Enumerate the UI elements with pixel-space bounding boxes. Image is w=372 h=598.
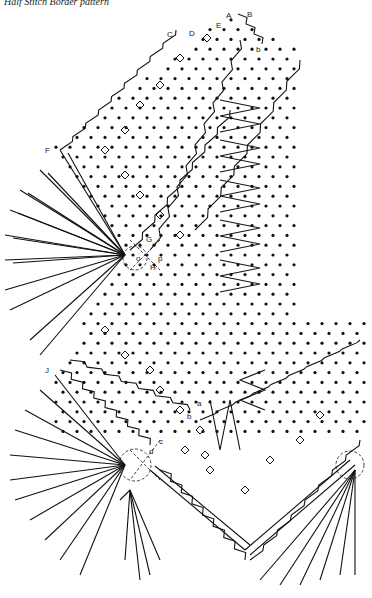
label-a: a xyxy=(197,399,202,408)
label-d: d xyxy=(149,447,153,456)
label-B: B xyxy=(247,10,252,19)
label-G: G xyxy=(146,235,152,244)
thread-lines xyxy=(5,14,360,585)
pin-holes xyxy=(54,18,365,433)
label-H: H xyxy=(150,263,156,272)
label-A: A xyxy=(226,11,232,20)
label-J: J xyxy=(45,366,49,375)
label-p: p xyxy=(158,254,163,263)
label-b-top: b xyxy=(256,45,261,54)
lace-pricking-diagram: A B C D E b F G H o p J a b c d xyxy=(0,0,372,598)
label-F: F xyxy=(45,146,50,155)
label-c: c xyxy=(159,437,163,446)
label-E: E xyxy=(216,21,221,30)
label-b: b xyxy=(187,412,192,421)
dashed-guides xyxy=(119,240,364,481)
label-o: o xyxy=(136,254,141,263)
label-C: C xyxy=(167,30,173,39)
label-D: D xyxy=(189,29,195,38)
